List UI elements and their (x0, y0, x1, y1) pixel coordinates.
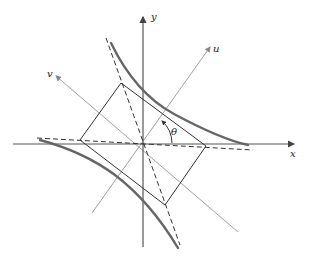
x-axis-label: x (290, 148, 296, 159)
v-axis-label: v (47, 68, 53, 79)
u-axis-label: u (213, 43, 219, 54)
angle-theta-label: θ (171, 126, 177, 137)
hyperbola-upper-branch (111, 43, 248, 145)
u-axis (92, 47, 210, 213)
y-axis-label: y (150, 11, 157, 22)
hyperbola-rotation-diagram: y x u v θ (0, 0, 311, 262)
hyperbola-lower-branch (40, 140, 178, 248)
